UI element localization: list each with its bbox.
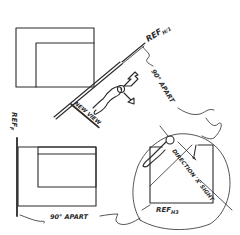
ref-bottom-label: REFH3	[156, 206, 179, 215]
direction-arrows-icon	[124, 72, 138, 104]
auxiliary-view-circle	[133, 134, 230, 230]
apart-label-bottom: 90° APART	[50, 213, 88, 221]
observer-figure-bottom	[143, 126, 174, 167]
ref-left-label: REFF	[9, 112, 18, 131]
apart-connector-top	[143, 47, 153, 66]
ref-line-top	[54, 43, 145, 119]
ref-bottom-tick	[142, 205, 150, 210]
apart-connector-bottom-right	[100, 214, 140, 225]
orthographic-projection-diagram: REFH/1 NEW VIEW 90° APART REFF 90° APART	[0, 0, 240, 235]
direction-sight-arrow	[178, 142, 232, 210]
ref-top-label: REFH/1	[144, 22, 172, 45]
apart-connector-top-tail	[178, 108, 214, 115]
front-view-box	[18, 147, 96, 206]
top-view-box	[16, 28, 94, 87]
aux-connector	[202, 118, 221, 139]
apart-connector-bottom-left	[20, 215, 45, 223]
apart-label-top: 90° APART	[149, 68, 176, 105]
observer-figure-top	[93, 86, 125, 115]
